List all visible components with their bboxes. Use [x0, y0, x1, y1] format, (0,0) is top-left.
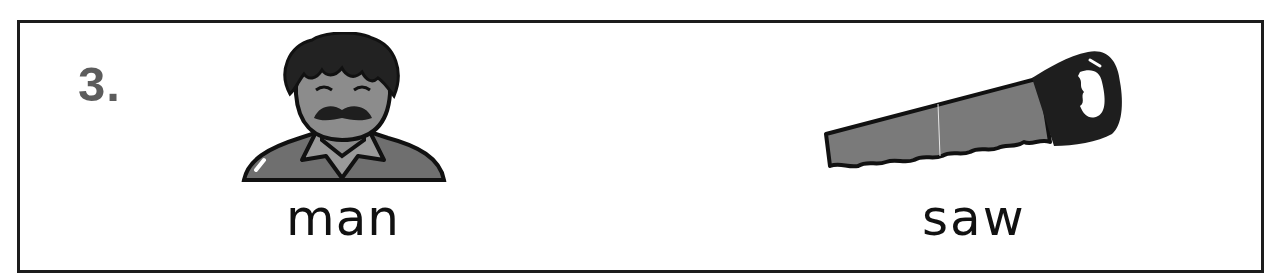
item-number: 3.	[78, 56, 121, 112]
hand-saw-icon	[818, 42, 1130, 172]
man-portrait-icon	[238, 32, 450, 188]
word-label-man: man	[286, 193, 400, 243]
word-label-saw: saw	[922, 193, 1026, 243]
